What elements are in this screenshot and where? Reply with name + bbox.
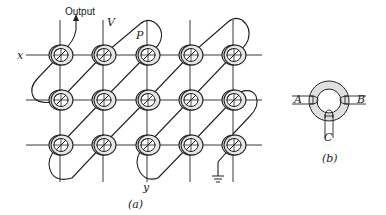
output-label: Output xyxy=(65,6,95,17)
core xyxy=(222,45,246,65)
core xyxy=(179,135,203,155)
core xyxy=(49,90,73,110)
core xyxy=(92,135,116,155)
y-label: y xyxy=(142,181,150,194)
single-core-diagram: A B C (b) xyxy=(292,81,366,165)
v-label: V xyxy=(107,16,116,29)
core xyxy=(92,45,116,65)
core xyxy=(92,90,116,110)
core-memory-figure: Output V P x y (a) A B C (b) xyxy=(0,0,386,215)
core xyxy=(222,135,246,155)
caption-b: (b) xyxy=(322,152,338,165)
core xyxy=(49,135,73,155)
core xyxy=(136,90,160,110)
core xyxy=(179,90,203,110)
p-label: P xyxy=(135,29,144,42)
c-label: C xyxy=(324,131,333,144)
ground-icon xyxy=(212,176,224,182)
a-label: A xyxy=(293,93,302,106)
figure-svg: Output V P x y (a) A B C (b) xyxy=(0,0,386,215)
core xyxy=(49,45,73,65)
core xyxy=(222,90,246,110)
caption-a: (a) xyxy=(128,198,143,211)
core xyxy=(136,45,160,65)
x-label: x xyxy=(17,49,24,62)
b-label: B xyxy=(356,93,365,106)
core xyxy=(136,135,160,155)
core xyxy=(179,45,203,65)
